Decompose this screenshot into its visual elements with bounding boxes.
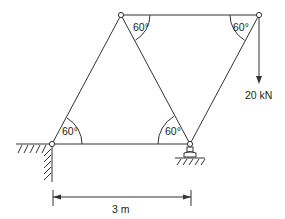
wall-hatch-left (44, 149, 51, 180)
dimension-arrow-right (183, 195, 191, 200)
angle-label-bottom-right: 60° (165, 126, 181, 137)
dimension-arrow-left (53, 195, 61, 200)
angle-label-bottom-left: 60° (62, 126, 78, 137)
truss-diagram: 60° 60° 60° 60° 20 kN 3 m (0, 0, 285, 219)
joint-bottom-right (187, 141, 192, 146)
joint-top-left (118, 12, 123, 17)
load-label: 20 kN (245, 90, 272, 101)
joint-bottom-left (49, 141, 54, 146)
ground-hatch-left (18, 145, 46, 153)
roller-support (175, 147, 205, 165)
dimension-label: 3 m (112, 204, 130, 215)
member-right-diagonal (190, 15, 259, 144)
load-arrow-head (256, 76, 262, 84)
joint-top-right (256, 12, 261, 17)
angle-label-top-left: 60° (133, 22, 149, 33)
angle-label-top-right: 60° (233, 22, 249, 33)
